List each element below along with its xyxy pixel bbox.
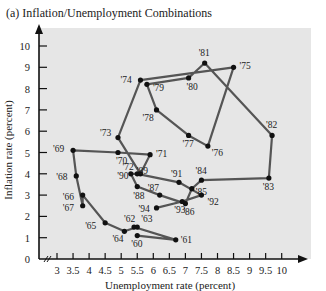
- y-tick-label: 8: [25, 84, 30, 95]
- data-point: [199, 178, 204, 183]
- y-tick-label: 2: [25, 211, 30, 222]
- data-point-label: '93: [174, 205, 185, 215]
- data-point-label: '61: [181, 235, 192, 245]
- data-point-label: '94: [139, 204, 150, 214]
- data-point-label: '69: [53, 144, 64, 154]
- data-point: [186, 133, 191, 138]
- data-point-label: '80: [187, 82, 198, 92]
- x-tick-label: 7: [183, 265, 188, 276]
- y-tick-label: 10: [20, 41, 31, 52]
- data-point: [115, 150, 120, 155]
- data-point: [269, 133, 274, 138]
- data-point: [154, 107, 159, 112]
- chart-plot: 33.544.555.566.577.588.599.5100123456789…: [0, 0, 326, 291]
- data-point: [138, 77, 143, 82]
- data-point: [189, 186, 194, 191]
- data-point-label: '66: [63, 192, 74, 202]
- x-tick-label: 5: [119, 265, 124, 276]
- y-tick-label: 5: [25, 148, 30, 159]
- data-point: [135, 184, 140, 189]
- data-point: [128, 171, 133, 176]
- data-point-label: '81: [199, 48, 210, 58]
- data-point: [266, 175, 271, 180]
- data-point: [122, 229, 127, 234]
- data-point: [157, 193, 162, 198]
- x-tick-label: 4: [86, 265, 92, 276]
- x-tick-label: 8.5: [227, 265, 240, 276]
- data-point-label: '65: [85, 221, 96, 231]
- x-tick-label: 10: [276, 265, 287, 276]
- data-point-label: '74: [120, 75, 131, 85]
- x-tick-label: 8: [215, 265, 220, 276]
- data-point: [144, 82, 149, 87]
- data-point: [205, 144, 210, 149]
- y-tick-label: 7: [25, 105, 30, 116]
- data-point: [80, 193, 85, 198]
- data-point: [80, 203, 85, 208]
- data-point: [202, 60, 207, 65]
- data-point-label: '76: [212, 148, 223, 158]
- y-tick-label: 9: [25, 62, 30, 73]
- data-point-label: '71: [156, 149, 167, 159]
- y-tick-label: 0: [25, 254, 30, 265]
- data-point: [186, 75, 191, 80]
- data-point-label: '82: [266, 120, 277, 130]
- data-point: [173, 237, 178, 242]
- x-tick-label: 9: [247, 265, 252, 276]
- data-point-label: '83: [263, 182, 274, 192]
- x-tick-label: 6: [151, 265, 156, 276]
- data-point-label: '91: [171, 169, 182, 179]
- data-point-label: '62: [124, 214, 135, 224]
- data-point: [199, 193, 204, 198]
- data-point-label: '84: [195, 166, 206, 176]
- data-point: [154, 205, 159, 210]
- data-point: [103, 220, 108, 225]
- x-tick-label: 6.5: [163, 265, 176, 276]
- data-point: [231, 65, 236, 70]
- data-point: [135, 224, 140, 229]
- data-point-label: '67: [63, 203, 74, 213]
- plot-background: [39, 28, 311, 259]
- x-tick-label: 5.5: [131, 265, 144, 276]
- y-axis-label: Inflation rate (percent): [2, 100, 15, 200]
- data-point: [176, 180, 181, 185]
- data-point-label: '92: [207, 197, 218, 207]
- data-point-label: '79: [153, 83, 164, 93]
- x-axis-label: Unemployment rate (percent): [105, 279, 235, 291]
- data-point-label: '87: [148, 183, 159, 193]
- x-tick-label: 9.5: [259, 265, 272, 276]
- data-point-label: '88: [133, 191, 144, 201]
- data-point: [115, 135, 120, 140]
- data-point: [135, 171, 140, 176]
- data-point: [70, 148, 75, 153]
- y-tick-label: 3: [25, 190, 30, 201]
- x-tick-label: 7.5: [195, 265, 208, 276]
- data-point-label: '75: [240, 61, 251, 71]
- data-point: [74, 173, 79, 178]
- data-point-label: '64: [112, 234, 123, 244]
- y-tick-label: 6: [25, 126, 30, 137]
- x-tick-label: 4.5: [99, 265, 112, 276]
- data-point-label: '73: [100, 128, 111, 138]
- data-point-label: '63: [141, 214, 152, 224]
- data-point-label: '68: [56, 172, 67, 182]
- data-point-label: '78: [143, 113, 154, 123]
- data-point-label: '90: [117, 171, 128, 181]
- data-point: [147, 152, 152, 157]
- y-tick-label: 1: [25, 233, 30, 244]
- x-tick-label: 3: [54, 265, 59, 276]
- data-point: [135, 233, 140, 238]
- data-point-label: '60: [131, 239, 142, 249]
- x-tick-label: 3.5: [66, 265, 79, 276]
- y-tick-label: 4: [25, 169, 31, 180]
- data-point: [180, 199, 185, 204]
- data-point-label: '77: [183, 139, 194, 149]
